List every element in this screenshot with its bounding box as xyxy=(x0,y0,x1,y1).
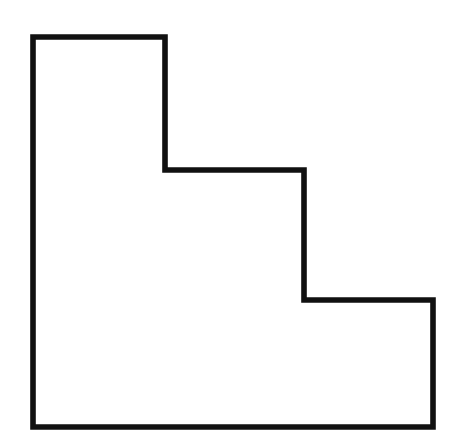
staircase-polygon-svg xyxy=(0,0,458,448)
figure-canvas xyxy=(0,0,458,448)
